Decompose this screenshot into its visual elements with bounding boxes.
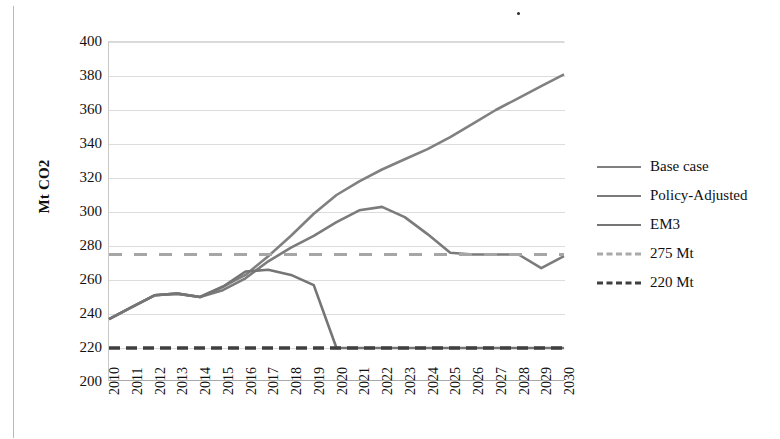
legend-label: 220 Mt (650, 275, 694, 290)
legend-swatch-icon (597, 277, 641, 289)
series-line (109, 270, 564, 348)
y-axis-tick: 300 (52, 204, 102, 219)
legend-item: Base case (597, 152, 777, 181)
x-axis-tick: 2017 (267, 379, 281, 395)
x-axis-tick: 2028 (518, 379, 532, 395)
legend-item: Policy-Adjusted (597, 181, 777, 210)
x-axis-tick: 2024 (427, 379, 441, 395)
series-line (109, 74, 564, 319)
legend-item: EM3 (597, 210, 777, 239)
x-axis-tick: 2015 (222, 379, 236, 395)
legend-label: EM3 (650, 217, 680, 232)
y-axis-title: Mt CO2 (36, 127, 53, 247)
x-axis-tick: 2018 (290, 379, 304, 395)
y-axis-tick: 400 (52, 34, 102, 49)
x-axis-tick: 2016 (245, 379, 259, 395)
y-axis-tick: 240 (52, 306, 102, 321)
x-axis-tick: 2029 (540, 379, 554, 395)
y-axis-tick: 280 (52, 238, 102, 253)
y-axis-tick: 380 (52, 68, 102, 83)
y-axis-tick: 340 (52, 136, 102, 151)
data-series-layer (109, 42, 565, 382)
x-axis-tick: 2025 (449, 379, 463, 395)
y-axis-tick: 260 (52, 272, 102, 287)
legend-label: Policy-Adjusted (650, 188, 748, 203)
x-axis-tick: 2023 (404, 379, 418, 395)
series-line (109, 207, 564, 319)
legend-label: Base case (650, 159, 709, 174)
x-axis-tick: 2011 (131, 379, 145, 395)
x-axis-tick: 2027 (495, 379, 509, 395)
x-axis-tick: 2012 (154, 379, 168, 395)
x-axis-tick: 2010 (108, 379, 122, 395)
y-axis-tick: 220 (52, 340, 102, 355)
x-axis-tick-labels: 2010201120122013201420152016201720182019… (108, 381, 564, 439)
legend-item: 220 Mt (597, 268, 777, 297)
x-axis-tick: 2014 (199, 379, 213, 395)
legend-swatch-icon (597, 190, 641, 202)
legend-item: 275 Mt (597, 239, 777, 268)
chart-legend: Base casePolicy-AdjustedEM3275 Mt220 Mt (597, 152, 777, 297)
y-axis-tick: 200 (52, 374, 102, 389)
legend-label: 275 Mt (650, 246, 694, 261)
y-axis-tick: 320 (52, 170, 102, 185)
legend-swatch-icon (597, 161, 641, 173)
x-axis-tick: 2022 (381, 379, 395, 395)
y-axis-tick: 360 (52, 102, 102, 117)
x-axis-tick: 2021 (358, 379, 372, 395)
x-axis-tick: 2020 (336, 379, 350, 395)
y-axis-tick-labels: 400380360340320300280260240220200 (52, 41, 102, 381)
x-axis-tick: 2026 (472, 379, 486, 395)
legend-swatch-icon (597, 219, 641, 231)
plot-area (108, 41, 564, 381)
emissions-line-chart: Mt CO2 400380360340320300280260240220200… (0, 0, 780, 439)
x-axis-tick: 2030 (563, 379, 577, 395)
x-axis-tick: 2013 (176, 379, 190, 395)
x-axis-tick: 2019 (313, 379, 327, 395)
legend-swatch-icon (597, 248, 641, 260)
